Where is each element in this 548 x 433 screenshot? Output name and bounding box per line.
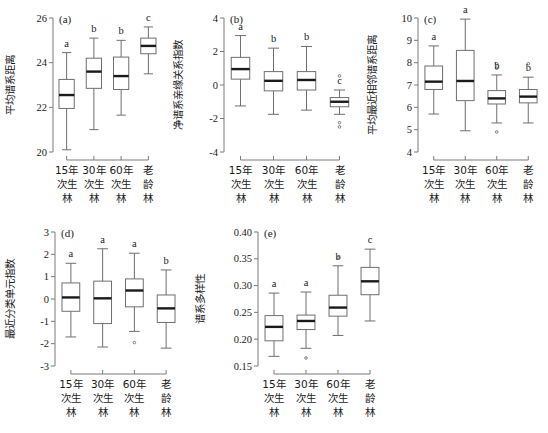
y-tick-label: 4 [213,13,219,24]
x-category-label: 次生 [231,178,251,190]
significance-letter: a [64,38,69,49]
x-category-label: 60年 [485,164,508,176]
y-tick-label: 0.20 [234,334,252,345]
x-category-label: 30年 [294,378,317,390]
boxplot-group: b [488,60,506,133]
x-category-label: 30年 [82,164,105,176]
x-category-label: 次生 [124,392,144,404]
x-category-label: 林 [335,192,346,204]
y-axis-title: 平均谱系距离 [4,55,16,115]
y-tick-label: 3 [44,227,49,238]
significance-letter: b [494,60,499,71]
significance-letter: b [271,33,276,44]
significance-letter: b [304,31,309,42]
boxplot-group: c [141,12,156,74]
x-category-label: 15年 [262,378,285,390]
box-iqr [86,58,101,88]
boxplot-group: c [361,234,379,321]
boxplot-group: a [62,248,80,337]
boxplot-group: a [125,238,143,344]
y-tick-label: 10 [402,13,413,24]
outlier-point [133,341,136,344]
panel-chart-e: 0.150.200.250.300.350.40谱系多样性(e)aabc15年次… [190,214,390,433]
x-category-label: 次生 [424,178,444,190]
y-tick-label: 22 [37,102,48,113]
outlier-point [338,126,341,129]
x-category-label: 林 [365,406,376,418]
x-category-label: 林 [62,192,73,204]
panel-label: (c) [424,13,437,26]
x-category-label: 林 [301,406,312,418]
x-category-label: 30年 [454,164,477,176]
y-tick-label: 9 [407,35,412,46]
x-category-label: 次生 [297,178,317,190]
y-tick-label: 2 [44,249,49,260]
x-category-label: 林 [302,192,313,204]
x-category-label: 次生 [57,178,77,190]
x-category-label: 林 [89,192,100,204]
x-category-label: 林 [523,192,534,204]
x-category-label: 次生 [84,178,104,190]
y-tick-label: 24 [37,57,48,68]
x-category-label: 15年 [55,164,78,176]
y-axis-title: 净谱系亲缘关系指数 [172,39,184,130]
boxplot-group: b [157,255,175,348]
x-category-label: 林 [98,406,109,418]
y-axis-title: 谱系多样性 [194,274,206,324]
y-tick-label: -2 [209,113,218,124]
significance-letter: a [238,21,243,32]
boxplot-group: a [231,21,249,106]
x-category-label: 林 [269,192,280,204]
x-category-label: 15年 [59,378,82,390]
x-category-label: 老 [335,164,345,176]
x-category-label: 林 [161,406,172,418]
panel-label: (a) [59,13,72,26]
y-tick-label: 0 [213,80,218,91]
boxplot-group: c [330,74,348,128]
x-category-label: 老 [365,378,375,390]
panel-chart-a: 20222426平均谱系距离(a)abbc15年次生林30年次生林60年次生林老… [0,0,168,214]
x-category-label: 林 [236,192,247,204]
y-tick-label: -3 [40,361,49,372]
significance-letter: c [337,75,342,86]
x-category-label: 林 [143,192,154,204]
significance-letter: a [272,278,277,289]
figure-boxplot-grid: 20222426平均谱系距离(a)abbc15年次生林30年次生林60年次生林老… [0,0,548,433]
significance-letter: a [100,234,105,245]
y-tick-label: 0.25 [234,307,252,318]
panel-label: (d) [61,227,74,240]
panel-a: 20222426平均谱系距离(a)abbc15年次生林30年次生林60年次生林老… [0,0,168,214]
y-tick-label: 0.35 [234,253,252,264]
x-category-label: 老 [143,164,153,176]
y-axis-title: 最近分类单元指数 [4,258,16,339]
x-category-label: 林 [333,406,344,418]
boxplot-group: b [297,31,315,110]
significance-letter: c [368,234,373,245]
significance-letter: c [146,12,151,23]
x-category-label: 次生 [264,392,284,404]
y-tick-label: 7 [407,80,412,91]
x-category-label: 15年 [229,164,252,176]
x-category-label: 次生 [61,392,81,404]
y-tick-label: 6 [407,102,412,113]
outlier-point [338,121,341,124]
panel-chart-c: 45678910平均最近相邻谱系距离(c)aabb15年次生林30年次生林60年… [362,0,548,214]
x-category-label: 30年 [262,164,285,176]
box-iqr [125,279,143,307]
panel-c: 45678910平均最近相邻谱系距离(c)aabb15年次生林30年次生林60年… [362,0,548,214]
x-category-label: 林 [269,406,280,418]
significance-letter: b [164,255,169,266]
y-tick-label: 0.15 [234,361,252,372]
boxplot-group: a [59,38,74,150]
x-category-label: 林 [129,406,140,418]
box-iqr [265,316,283,341]
x-category-label: 龄 [143,178,154,190]
x-category-label: 60年 [295,164,318,176]
x-category-label: 林 [116,192,127,204]
x-category-label: 林 [429,192,440,204]
y-tick-label: -1 [40,316,49,327]
y-tick-label: 0.40 [234,227,252,238]
outlier-point [495,131,498,134]
x-category-label: 60年 [109,164,132,176]
boxplot-group: b [264,33,282,114]
